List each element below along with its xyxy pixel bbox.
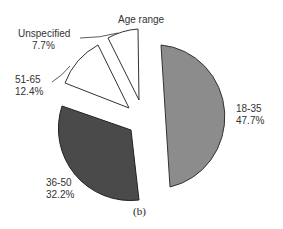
label-18-35-pct: 47.7% bbox=[236, 115, 264, 127]
label-18-35-name: 18-35 bbox=[236, 103, 264, 115]
label-51-65: 51-65 12.4% bbox=[15, 74, 43, 98]
slice-18-35 bbox=[161, 45, 225, 187]
label-36-50-name: 36-50 bbox=[46, 177, 74, 189]
label-51-65-name: 51-65 bbox=[15, 74, 43, 86]
label-36-50: 36-50 32.2% bbox=[46, 177, 74, 201]
chart-title: Age range bbox=[118, 14, 164, 26]
figure-caption: (b) bbox=[133, 205, 146, 217]
label-18-35: 18-35 47.7% bbox=[236, 103, 264, 127]
label-unspecified-name: Unspecified bbox=[18, 28, 70, 40]
label-unspecified: Unspecified 7.7% bbox=[18, 28, 70, 52]
label-51-65-pct: 12.4% bbox=[15, 86, 43, 98]
label-36-50-pct: 32.2% bbox=[46, 189, 74, 201]
label-unspecified-pct: 7.7% bbox=[18, 40, 70, 52]
